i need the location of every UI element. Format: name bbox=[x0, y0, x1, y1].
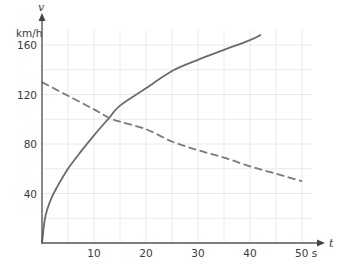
x-tick-label: 10 bbox=[87, 247, 100, 259]
x-tick-labels: 1020304050 s bbox=[87, 247, 317, 259]
x-tick-label: 30 bbox=[191, 247, 204, 259]
x-axis-arrow-icon bbox=[317, 240, 325, 247]
y-axis-unit: km/h bbox=[16, 27, 43, 39]
y-axis-name: v bbox=[38, 1, 45, 14]
solid-series-curve bbox=[42, 35, 260, 243]
y-tick-labels: 4080120160 bbox=[17, 39, 37, 200]
x-axis-name: t bbox=[329, 237, 334, 250]
y-tick-label: 160 bbox=[17, 39, 37, 51]
velocity-time-chart: v km/h t 1020304050 s 4080120160 bbox=[0, 0, 348, 264]
grid-lines bbox=[42, 30, 312, 243]
y-tick-label: 40 bbox=[24, 188, 37, 200]
y-tick-label: 120 bbox=[17, 89, 37, 101]
y-tick-label: 80 bbox=[24, 138, 37, 150]
x-tick-label: 50 s bbox=[295, 247, 317, 259]
axes bbox=[39, 13, 326, 247]
y-axis-arrow-icon bbox=[39, 13, 46, 21]
x-tick-label: 20 bbox=[139, 247, 152, 259]
x-tick-label: 40 bbox=[243, 247, 256, 259]
